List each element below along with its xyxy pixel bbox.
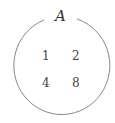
set-diagram: A 1 2 4 8 xyxy=(0,0,115,123)
set-label: A xyxy=(53,7,66,25)
element-4: 8 xyxy=(72,76,80,90)
set-circle xyxy=(14,19,110,114)
element-2: 2 xyxy=(72,49,80,63)
element-1: 1 xyxy=(42,49,50,63)
element-3: 4 xyxy=(42,76,50,90)
